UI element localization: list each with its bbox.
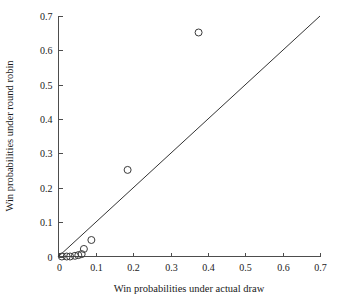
y-axis-tick-labels: 00.10.20.30.40.50.60.7 [40, 11, 53, 263]
x-tick-label: 0.4 [202, 262, 215, 273]
scatter-plot-figure: 00.10.20.30.40.50.60.7 00.10.20.30.40.50… [0, 0, 351, 308]
x-tick-label: 0.7 [314, 262, 327, 273]
x-axis-tick-labels: 00.10.20.30.40.50.60.7 [57, 262, 327, 273]
x-tick-label: 0.2 [127, 262, 140, 273]
data-point-marker [195, 29, 202, 36]
y-tick-label: 0.6 [40, 45, 53, 56]
y-tick-label: 0.7 [40, 11, 53, 22]
data-point-marker [88, 237, 95, 244]
x-tick-label: 0.6 [277, 262, 290, 273]
y-tick-label: 0.2 [40, 183, 53, 194]
x-axis-ticks [60, 253, 321, 257]
plot-canvas: 00.10.20.30.40.50.60.7 00.10.20.30.40.50… [0, 0, 351, 308]
x-tick-label: 0.3 [165, 262, 178, 273]
y-tick-label: 0 [48, 252, 53, 263]
y-tick-label: 0.3 [40, 148, 53, 159]
data-point-marker [124, 166, 131, 173]
identity-reference-line [59, 16, 321, 257]
x-tick-label: 0.5 [239, 262, 252, 273]
x-tick-label: 0 [57, 262, 62, 273]
y-axis-ticks [59, 17, 63, 258]
y-axis-title: Win probabilities under round robin [4, 60, 15, 212]
y-tick-label: 0.4 [40, 114, 53, 125]
y-tick-label: 0.5 [40, 80, 53, 91]
y-tick-label: 0.1 [40, 217, 53, 228]
x-tick-label: 0.1 [90, 262, 103, 273]
x-axis-title: Win probabilities under actual draw [114, 283, 265, 294]
